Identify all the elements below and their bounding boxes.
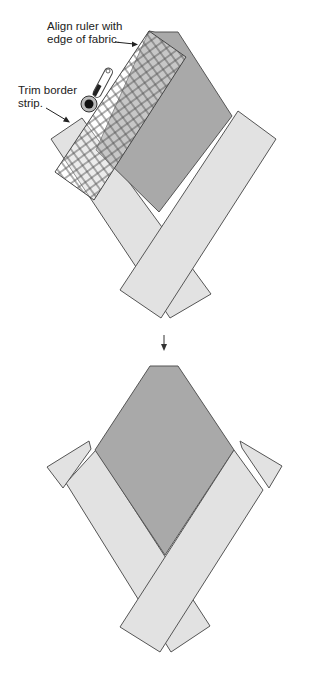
ruler-label-line1: Align ruler with bbox=[47, 20, 122, 33]
ruler-label-line2: edge of fabric. bbox=[47, 33, 122, 46]
arrow-down-icon bbox=[161, 335, 167, 351]
trim-label-line2: strip. bbox=[18, 97, 77, 110]
step2-diagram bbox=[47, 366, 282, 652]
ruler-instruction-label: Align ruler with edge of fabric. bbox=[47, 20, 122, 46]
trim-leader-arrow bbox=[46, 108, 70, 123]
trim-label-line1: Trim border bbox=[18, 84, 77, 97]
trim-instruction-label: Trim border strip. bbox=[18, 84, 77, 110]
step1-diagram bbox=[46, 31, 276, 318]
